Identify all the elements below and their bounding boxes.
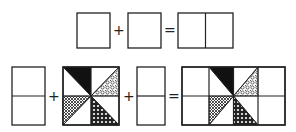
row2-equals: = (168, 88, 180, 104)
row2-right-column (137, 67, 165, 125)
row1-square-a (77, 13, 110, 48)
row2-left-column (12, 67, 45, 125)
quilt-diagram: + = + (0, 0, 296, 132)
row1-plus: + (113, 22, 125, 38)
row1-equals: = (164, 22, 176, 38)
row1-equation: + = (77, 13, 233, 48)
row2-result-block (182, 67, 285, 125)
row1-square-b (128, 13, 161, 48)
row2-plus-1: + (48, 88, 60, 104)
row2-plus-2: + (123, 88, 135, 104)
row1-result-rectangle (178, 13, 233, 48)
pinwheel-block (63, 67, 119, 125)
row2-equation: + + = (12, 67, 285, 125)
